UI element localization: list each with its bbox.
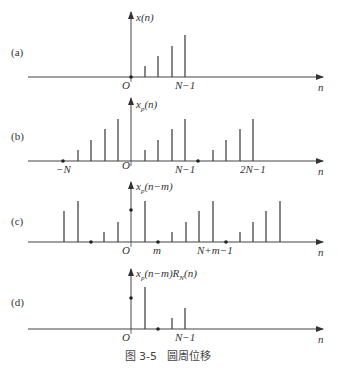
tick-label-c1: N+m−1 bbox=[196, 244, 233, 256]
origin-label-b: O bbox=[122, 159, 130, 171]
xlabel-b: n bbox=[318, 165, 324, 177]
xlabel-a: n bbox=[318, 81, 324, 93]
stem-dot bbox=[89, 240, 93, 244]
panel-label-d: (d) bbox=[11, 296, 24, 309]
xlabel-c: n bbox=[318, 246, 324, 258]
stem-dot bbox=[156, 327, 160, 331]
stem-dot bbox=[196, 159, 200, 163]
panel-label-a: (a) bbox=[11, 46, 24, 59]
ylabel-c: xp(n−m) bbox=[135, 180, 173, 195]
panel-a: (a) x(n) O N−1 n bbox=[11, 11, 324, 93]
panel-label-b: (b) bbox=[11, 130, 24, 143]
panel-d: (d) xp(n−m)RN(n) O N−1 n bbox=[11, 267, 324, 345]
origin-label-c: O bbox=[122, 244, 130, 256]
figure-caption: 图 3-5 圆周位移 bbox=[125, 349, 212, 363]
tick-label-m: m bbox=[153, 244, 161, 256]
panel-c: (c) xp(n−m) O m N+m−1 n bbox=[11, 180, 324, 258]
panel-b: (b) xp(n) −N O N−1 2N−1 n bbox=[11, 98, 324, 177]
origin-label-a: O bbox=[122, 79, 130, 91]
tick-label-b2: 2N−1 bbox=[240, 163, 266, 175]
ylabel-d: xp(n−m)RN(n) bbox=[135, 267, 197, 282]
tick-label-b1: N−1 bbox=[174, 163, 195, 175]
tick-label-neg-n: −N bbox=[56, 163, 71, 175]
tick-label-a: N−1 bbox=[174, 79, 195, 91]
stem-dot bbox=[129, 296, 133, 300]
origin-label-d: O bbox=[122, 331, 130, 343]
tick-label-d1: N−1 bbox=[174, 331, 195, 343]
ylabel-a: x(n) bbox=[135, 11, 154, 24]
xlabel-d: n bbox=[318, 333, 324, 345]
panel-label-c: (c) bbox=[11, 215, 24, 228]
circular-shift-figure: (a) x(n) O N−1 n (b) xp(n) −N O bbox=[0, 0, 337, 375]
ylabel-b: xp(n) bbox=[135, 98, 158, 113]
stem-dot bbox=[129, 208, 133, 212]
